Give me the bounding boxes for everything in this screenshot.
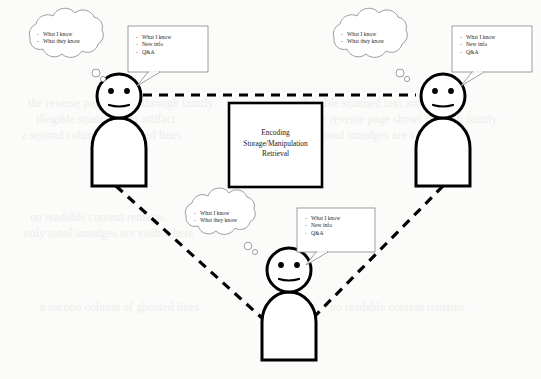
thought-line: What they know xyxy=(43,38,80,44)
thought-line: What they know xyxy=(200,217,237,223)
thought-dot-small xyxy=(253,250,258,255)
thought-bubble-text-bottom-center: -What I know -What they know xyxy=(194,210,237,225)
diagram-vector-layer xyxy=(0,0,541,379)
speech-line: New info xyxy=(466,41,487,47)
speech-box-text-top-right: -What I know -New info -Q&A xyxy=(460,34,495,56)
speech-box-text-bottom-center: -What I know -New info -Q&A xyxy=(305,215,340,237)
person-bottom-center xyxy=(262,248,316,360)
eye-right-icon xyxy=(448,88,454,94)
thought-dot-large xyxy=(92,69,100,77)
eye-left-icon xyxy=(108,88,114,94)
head-bottom-center xyxy=(267,248,311,292)
central-box-text: Encoding Storage/Manipulation Retrieval xyxy=(229,128,322,160)
body-top-right xyxy=(416,118,470,186)
speech-line: What I know xyxy=(142,34,171,40)
thought-line: What I know xyxy=(200,210,229,216)
thought-dot-small xyxy=(404,76,409,81)
speech-line: New info xyxy=(311,222,332,228)
thought-dot-large xyxy=(244,242,252,250)
thought-line: What I know xyxy=(43,31,72,37)
eye-left-icon xyxy=(432,88,438,94)
speech-line: What I know xyxy=(311,215,340,221)
thought-dot-small xyxy=(100,76,105,81)
thought-line: What they know xyxy=(347,38,384,44)
diagram-canvas: the reverse page shows through faintly i… xyxy=(0,0,541,379)
speech-box-text-top-left: -What I know -New info -Q&A xyxy=(136,34,171,56)
speech-tail-icon xyxy=(461,72,484,86)
central-box-line: Storage/Manipulation xyxy=(243,139,307,148)
person-top-right xyxy=(416,74,470,186)
person-top-left xyxy=(92,74,146,186)
central-box-line: Retrieval xyxy=(262,149,289,158)
speech-line: Q&A xyxy=(142,49,154,55)
eye-left-icon xyxy=(278,262,284,268)
speech-line: Q&A xyxy=(466,49,478,55)
head-top-right xyxy=(421,74,465,118)
speech-line: Q&A xyxy=(311,230,323,236)
thought-bubble-text-top-left: -What I know -What they know xyxy=(37,31,80,46)
body-top-left xyxy=(92,118,146,186)
thought-dot-large xyxy=(396,69,404,77)
eye-right-icon xyxy=(124,88,130,94)
speech-line: New info xyxy=(142,41,163,47)
thought-line: What I know xyxy=(347,31,376,37)
speech-tail-icon xyxy=(137,72,160,86)
eye-right-icon xyxy=(294,262,300,268)
thought-bubble-text-top-right: -What I know -What they know xyxy=(341,31,384,46)
body-bottom-center xyxy=(262,292,316,360)
central-box-line: Encoding xyxy=(261,128,289,137)
speech-line: What I know xyxy=(466,34,495,40)
